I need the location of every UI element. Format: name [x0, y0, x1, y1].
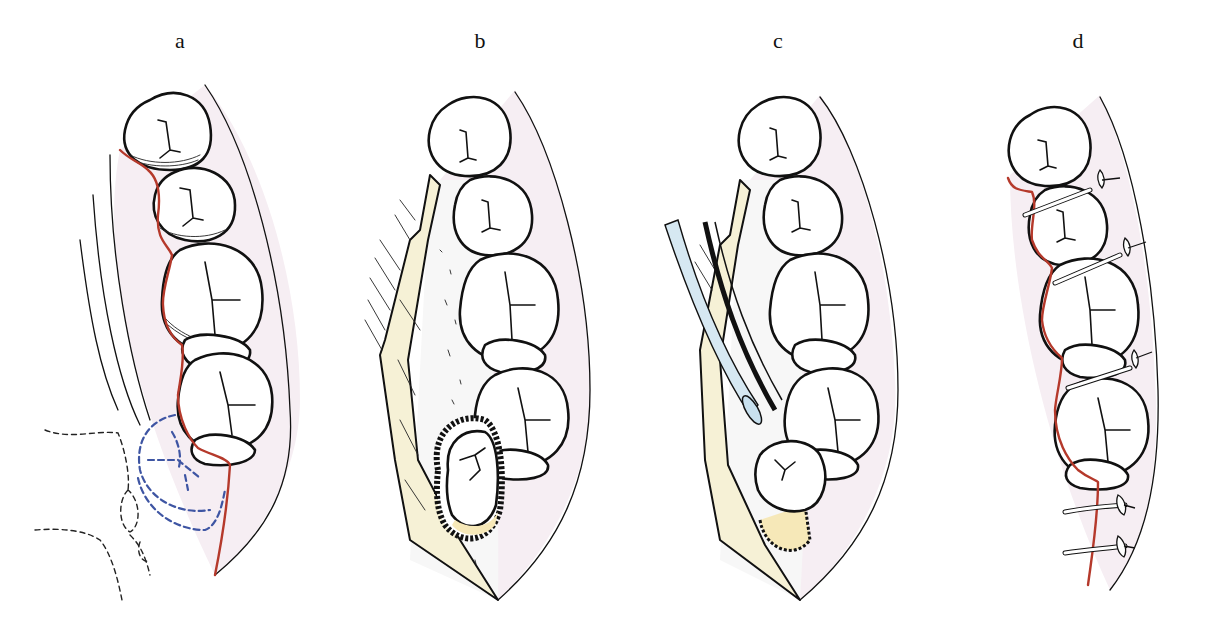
panel-b: b	[300, 0, 600, 625]
tooth-a1	[124, 93, 211, 170]
impacted-molar	[437, 418, 502, 538]
panel-a-illustration	[0, 0, 300, 625]
panel-a: a	[0, 0, 300, 625]
panel-d: d	[920, 0, 1206, 625]
panel-d-illustration	[920, 0, 1206, 625]
panel-c: c	[600, 0, 920, 625]
panel-b-illustration	[300, 0, 600, 625]
tooth-a2	[154, 168, 235, 241]
elevated-molar	[756, 441, 826, 511]
panel-c-illustration	[600, 0, 920, 625]
